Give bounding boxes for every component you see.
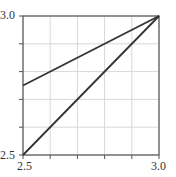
y-tick-label-top: 3.0 (0, 9, 15, 21)
x-tick-label-left: 2.5 (17, 160, 32, 172)
series-diagonal-line (23, 16, 159, 155)
y-tick-label-bottom: 2.5 (0, 149, 15, 161)
x-tick-label-right: 3.0 (151, 160, 166, 172)
series-upper-line (23, 16, 159, 86)
data-series (23, 16, 159, 155)
line-chart (0, 0, 176, 177)
